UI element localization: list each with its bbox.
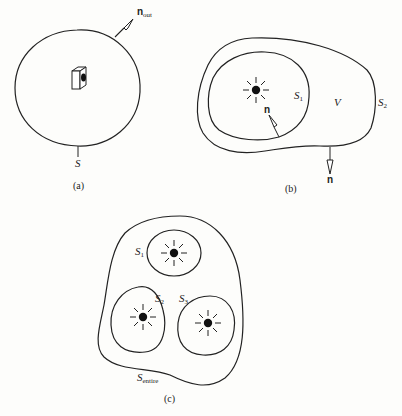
- normal-outer-label: n: [327, 174, 333, 185]
- panel-b: n S1 V S2 n (b): [197, 38, 387, 195]
- panel-a: nout S (a): [15, 6, 152, 192]
- normal-out-label: nout: [137, 6, 152, 19]
- surface-s2-label: S2: [155, 292, 165, 306]
- surface-entire-label: Sentire: [137, 371, 158, 385]
- normal-inner-label: n: [264, 104, 270, 115]
- surface-s-label: S: [75, 157, 81, 169]
- surface-s1-label: S1: [294, 89, 304, 103]
- normal-out-arrow-icon: [115, 19, 133, 37]
- caption-c: (c): [164, 393, 175, 405]
- surface-s2-outline: [197, 38, 375, 153]
- surface-s2-label: S2: [378, 96, 388, 110]
- normal-inner-arrow-icon: [269, 115, 279, 137]
- caption-a: (a): [73, 180, 84, 192]
- panel-c: S1 S2 S3 Sentire (c): [98, 216, 243, 405]
- caption-b: (b): [285, 183, 297, 195]
- point-charge-icon: [243, 77, 269, 103]
- volume-v-label: V: [334, 96, 342, 108]
- point-charge-icon: [161, 240, 187, 266]
- surface-s3-label: S3: [179, 292, 189, 306]
- surface-s1-label: S1: [135, 245, 145, 259]
- point-charge-icon: [195, 310, 221, 336]
- gauss-surfaces-diagram: nout S (a) n S1 V S2 n (b): [0, 0, 402, 416]
- surface-entire-outline: [98, 216, 243, 385]
- charge-box-icon: [72, 67, 86, 89]
- point-charge-icon: [130, 304, 156, 330]
- normal-outer-arrow-icon: [327, 147, 333, 174]
